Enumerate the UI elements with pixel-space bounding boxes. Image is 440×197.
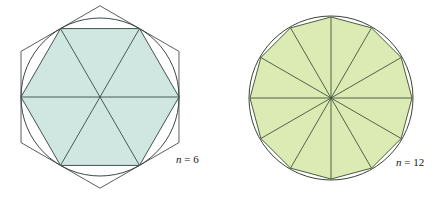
figure-stage: n = 6 n = 12 — [0, 0, 440, 197]
hexagon-label: n = 6 — [176, 153, 199, 165]
dodecagon-label: n = 12 — [396, 156, 424, 168]
polygon-figures-svg: n = 6 n = 12 — [0, 0, 440, 197]
